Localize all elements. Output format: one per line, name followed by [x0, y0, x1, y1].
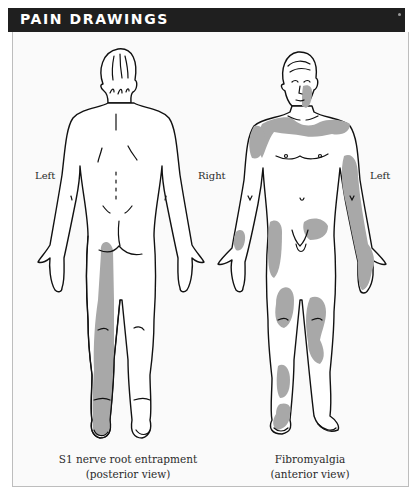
caption-posterior: S1 nerve root entrapment (posterior view…: [48, 452, 208, 482]
caption-anterior-view: (anterior view): [250, 467, 370, 482]
caption-anterior-title: Fibromyalgia: [250, 452, 370, 467]
label-left-anterior: Left: [370, 170, 390, 181]
label-right-center: Right: [198, 170, 226, 181]
label-left-posterior: Left: [35, 170, 55, 181]
caption-posterior-view: (posterior view): [48, 467, 208, 482]
caption-anterior: Fibromyalgia (anterior view): [250, 452, 370, 482]
caption-posterior-title: S1 nerve root entrapment: [48, 452, 208, 467]
anterior-body-figure: [0, 0, 415, 493]
